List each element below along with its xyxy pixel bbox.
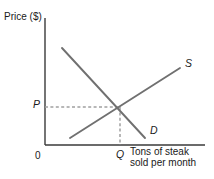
x-axis-label-line-1: Tons of steak [130, 146, 189, 157]
origin-tick-label: 0 [35, 150, 41, 161]
x-axis-label-line-2: sold per month [130, 157, 196, 168]
price-tick-label: P [33, 99, 40, 111]
quantity-tick-label: Q [116, 149, 124, 161]
supply-demand-chart: Price ($) Tons of steaksold per month 0 … [0, 0, 214, 179]
demand-curve-label: D [150, 125, 158, 137]
supply-curve [70, 68, 180, 138]
demand-curve [62, 48, 145, 138]
supply-curve-label: S [185, 58, 192, 70]
x-axis-label: Tons of steaksold per month [130, 146, 196, 168]
y-axis-label: Price ($) [4, 11, 42, 22]
